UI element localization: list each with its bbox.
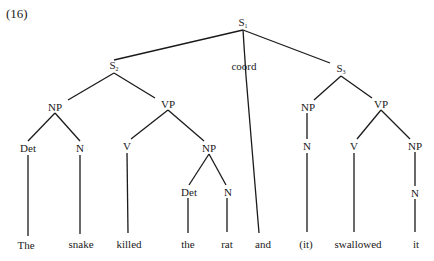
tree-node-n3: N [303, 140, 311, 152]
node-subscript: 1 [245, 23, 248, 29]
tree-node-n1: N [76, 142, 84, 154]
tree-leaf-word: and [255, 238, 271, 250]
node-label: NP [202, 142, 216, 154]
tree-node-coord: coord [231, 60, 256, 72]
leaf-label: (it) [299, 238, 312, 250]
tree-edge [168, 110, 204, 141]
tree-node-np4: NP [408, 140, 422, 152]
tree-leaf-word: The [17, 239, 34, 251]
leaf-label: it [413, 238, 419, 250]
leaf-label: rat [221, 238, 233, 250]
tree-edge [189, 154, 209, 185]
node-label: Det [20, 142, 36, 154]
node-label: N [411, 187, 419, 199]
node-label: NP [48, 101, 62, 113]
tree-node-v1: V [123, 140, 131, 152]
tree-leaf-word: snake [68, 238, 93, 250]
tree-edge [243, 30, 330, 63]
tree-edge [68, 73, 114, 100]
tree-edge [114, 73, 155, 98]
syntax-tree-edges [0, 0, 434, 261]
tree-edge [28, 113, 55, 141]
tree-node-det2: Det [181, 186, 197, 198]
tree-node-n2: N [224, 186, 232, 198]
leaf-label: killed [116, 238, 141, 250]
node-label: VP [374, 98, 388, 110]
tree-node-vp1: VP [161, 98, 175, 110]
tree-leaf-word: the [181, 238, 194, 250]
tree-leaf-word: (it) [299, 238, 312, 250]
tree-edge [357, 110, 381, 139]
tree-node-np2: NP [202, 142, 216, 154]
node-label: coord [231, 60, 256, 72]
leaf-label: swallowed [334, 238, 381, 250]
node-subscript: 3 [343, 69, 346, 75]
tree-node-s3: S3 [336, 62, 345, 78]
node-label: NP [301, 101, 315, 113]
node-label: Det [181, 186, 197, 198]
tree-edge [314, 76, 341, 100]
tree-edge [341, 76, 372, 98]
tree-leaf-word: rat [221, 238, 233, 250]
tree-node-det1: Det [20, 142, 36, 154]
tree-edge [209, 154, 226, 185]
tree-edge [246, 76, 259, 233]
node-label: NP [408, 140, 422, 152]
tree-edge [131, 110, 168, 139]
tree-node-vp2: VP [374, 98, 388, 110]
tree-edge [127, 153, 128, 233]
tree-node-s1: S1 [238, 16, 247, 32]
tree-node-np1: NP [48, 101, 62, 113]
tree-node-n4: N [411, 187, 419, 199]
tree-edge [114, 30, 243, 60]
node-label: VP [161, 98, 175, 110]
tree-edge [381, 110, 410, 139]
node-label: V [350, 140, 358, 152]
tree-leaf-word: it [413, 238, 419, 250]
leaf-label: the [181, 238, 194, 250]
tree-leaf-word: swallowed [334, 238, 381, 250]
node-label: N [76, 142, 84, 154]
tree-edge [55, 113, 80, 141]
node-subscript: 2 [116, 66, 119, 72]
tree-node-v2: V [350, 140, 358, 152]
node-label: N [224, 186, 232, 198]
node-label: V [123, 140, 131, 152]
tree-node-np3: NP [301, 101, 315, 113]
tree-leaf-word: killed [116, 238, 141, 250]
leaf-label: The [17, 239, 34, 251]
leaf-label: snake [68, 238, 93, 250]
leaf-label: and [255, 238, 271, 250]
tree-node-s2: S2 [109, 59, 118, 75]
node-label: N [303, 140, 311, 152]
